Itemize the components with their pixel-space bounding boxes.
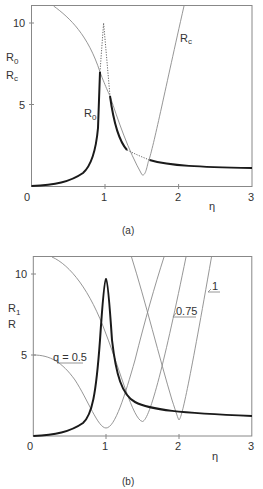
curve-q-0-75 (52, 257, 186, 422)
xtick-label-2-b: 2 (175, 440, 181, 452)
curve-label-q1: 1 (212, 280, 218, 292)
curve-r0-unstable-low (127, 150, 150, 160)
xtick-label-2-a: 2 (175, 191, 181, 203)
plot-frame-a (32, 6, 253, 187)
curve-label-r0: R0 (84, 107, 97, 122)
xlabel-eta-b: η (212, 450, 218, 462)
xtick-label-3-b: 3 (248, 440, 254, 452)
curve-label-rc: Rc (180, 32, 192, 46)
xtick-label-3-a: 3 (248, 191, 254, 203)
ytick-label-10-b: 10 (15, 268, 27, 280)
plot-frame-b (33, 257, 252, 437)
curve-rc (54, 6, 184, 175)
ylabel-rc-a: Rc (6, 69, 18, 83)
ytick-label-5-a: 5 (19, 99, 25, 111)
ytick-label-10-a: 10 (13, 17, 25, 29)
xlabel-eta-a: η (209, 200, 215, 212)
xtick-label-1-b: 1 (102, 440, 108, 452)
curve-r0-left (32, 72, 101, 186)
xtick-label-0-b: 0 (27, 440, 33, 452)
ytick-label-5-b: 5 (21, 349, 27, 361)
curve-label-q075: 0.75 (176, 305, 197, 317)
panel-b: R1 R 10 5 0 1 2 3 η q = 0.5 0.75 1 (b) (8, 257, 254, 488)
curve-label-q05: q = 0.5 (53, 351, 87, 363)
xtick-label-0-a: 0 (24, 191, 30, 203)
caption-b: (b) (122, 476, 134, 487)
caption-a: (a) (122, 225, 134, 236)
ylabel-r0-a: R0 (6, 51, 19, 66)
ylabel-r1-b: R1 (8, 302, 21, 317)
xtick-label-1-a: 1 (101, 191, 107, 203)
figure: R0 Rc 10 5 0 1 2 3 η R0 Rc (a) (0, 0, 263, 489)
curve-q-1 (132, 257, 212, 420)
curve-q-0-5 (33, 257, 164, 428)
ylabel-r-b: R (8, 318, 16, 330)
panel-a: R0 Rc 10 5 0 1 2 3 η R0 Rc (a) (6, 6, 254, 237)
curve-r0-tail (150, 160, 253, 168)
